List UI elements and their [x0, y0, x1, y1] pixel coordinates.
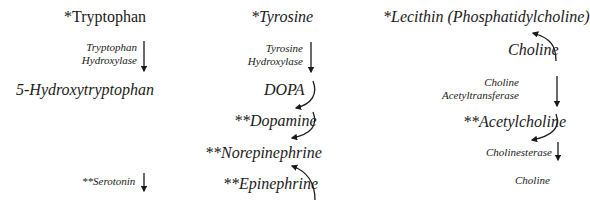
curved-arrow-icon [533, 33, 556, 61]
curved-arrow-icon [292, 112, 315, 138]
curved-arrow-icon [296, 81, 315, 108]
curved-arrow-icon [292, 166, 315, 200]
curved-arrow-icon [532, 114, 557, 140]
